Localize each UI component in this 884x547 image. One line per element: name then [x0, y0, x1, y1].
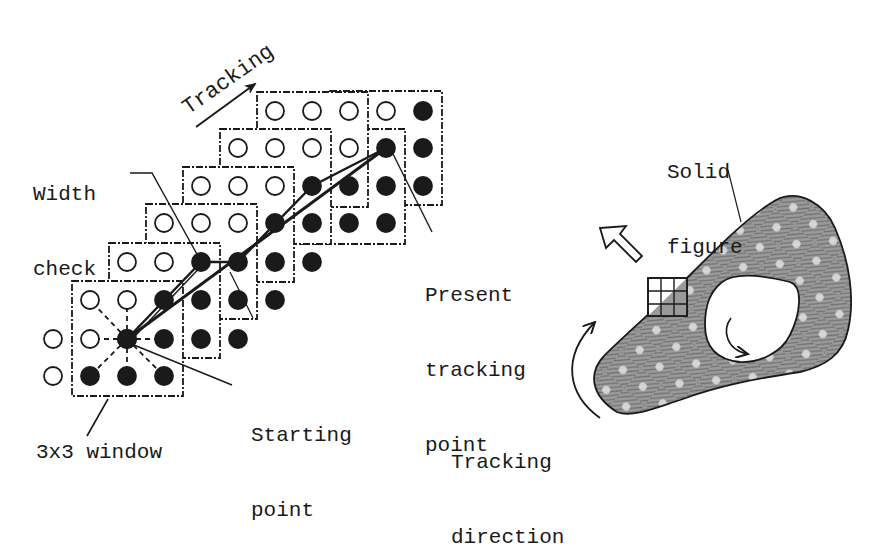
direction-line-2: direction — [451, 525, 564, 547]
filled-pixel — [155, 330, 173, 348]
filled-pixel — [155, 291, 173, 309]
filled-pixel — [303, 214, 321, 232]
present-line-1: Present — [425, 283, 526, 308]
empty-pixel — [155, 253, 173, 271]
present-line-2: tracking — [425, 358, 526, 383]
filled-pixel — [192, 291, 210, 309]
filled-pixel — [192, 253, 210, 271]
empty-pixel — [44, 330, 62, 348]
empty-pixel — [44, 367, 62, 385]
empty-pixel — [81, 330, 99, 348]
filled-pixel — [377, 139, 395, 157]
filled-pixel — [414, 139, 432, 157]
empty-pixel — [266, 102, 284, 120]
filled-pixel — [303, 253, 321, 271]
width-check-label: Width check — [33, 132, 96, 307]
empty-pixel — [155, 214, 173, 232]
filled-pixel — [266, 253, 284, 271]
filled-pixel — [303, 177, 321, 195]
filled-pixel — [377, 177, 395, 195]
filled-pixel — [266, 214, 284, 232]
empty-pixel — [266, 139, 284, 157]
width-check-line-1: Width — [33, 182, 96, 207]
filled-pixel — [414, 177, 432, 195]
filled-pixel — [118, 367, 136, 385]
filled-pixel — [340, 214, 358, 232]
width-check-line-2: check — [33, 257, 96, 282]
empty-pixel — [192, 214, 210, 232]
empty-pixel — [303, 139, 321, 157]
empty-pixel — [377, 102, 395, 120]
empty-pixel — [229, 214, 247, 232]
window-leader — [87, 399, 108, 436]
empty-pixel — [192, 177, 210, 195]
filled-pixel — [229, 253, 247, 271]
filled-pixel — [266, 291, 284, 309]
starting-point-marker — [117, 329, 137, 349]
filled-pixel — [81, 367, 99, 385]
window-3x3-label: 3x3 window — [36, 440, 162, 465]
empty-pixel — [266, 177, 284, 195]
starting-point-label: Starting point — [251, 373, 352, 547]
filled-pixel — [340, 177, 358, 195]
empty-pixel — [118, 253, 136, 271]
empty-pixel — [340, 139, 358, 157]
solid-figure-label: Solid figure — [667, 110, 743, 285]
filled-pixel — [377, 214, 395, 232]
filled-pixel — [414, 102, 432, 120]
starting-line-2: point — [251, 498, 352, 523]
empty-pixel — [118, 291, 136, 309]
starting-line-1: Starting — [251, 423, 352, 448]
direction-line-1: Tracking — [451, 450, 564, 475]
solid-line-1: Solid — [667, 160, 743, 185]
empty-pixel — [229, 139, 247, 157]
tracking-direction-label: Tracking direction — [451, 400, 564, 547]
solid-line-2: figure — [667, 235, 743, 260]
direction-hollow-arrow-icon — [600, 226, 642, 262]
empty-pixel — [303, 102, 321, 120]
empty-pixel — [340, 102, 358, 120]
filled-pixel — [229, 330, 247, 348]
empty-pixel — [229, 177, 247, 195]
filled-pixel — [155, 367, 173, 385]
filled-pixel — [192, 330, 210, 348]
